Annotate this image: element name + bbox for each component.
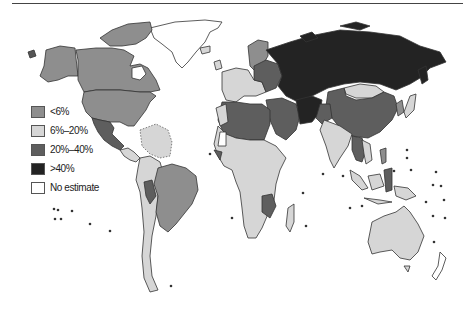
legend-swatch [31, 163, 45, 175]
legend-label: >40% [50, 163, 74, 174]
region-middle-east [266, 98, 300, 140]
legend-swatch [31, 106, 45, 118]
legend-item-no-estimate: No estimate [31, 178, 99, 197]
legend-swatch [31, 125, 45, 137]
legend-item-6-20: 6%–20% [31, 121, 99, 140]
legend-label: 6%–20% [50, 125, 88, 136]
legend-swatch [31, 182, 45, 194]
region-brazil [154, 164, 198, 232]
region-alaska [40, 46, 78, 82]
legend-label: No estimate [50, 182, 99, 193]
region-canada-arctic [100, 22, 152, 46]
legend-label: 20%–40% [50, 144, 93, 155]
legend-label: <6% [50, 106, 69, 117]
map-legend: <6% 6%–20% 20%–40% >40% No estimate [31, 102, 99, 197]
region-central-america [120, 148, 140, 162]
region-canada [76, 48, 160, 92]
legend-swatch [31, 144, 45, 156]
legend-item-20-40: 20%–40% [31, 140, 99, 159]
region-australia [368, 206, 424, 260]
region-new-zealand [432, 252, 446, 280]
legend-item-gt40: >40% [31, 159, 99, 178]
region-greenland [150, 20, 222, 68]
region-indonesia [350, 170, 368, 190]
legend-item-lt6: <6% [31, 102, 99, 121]
